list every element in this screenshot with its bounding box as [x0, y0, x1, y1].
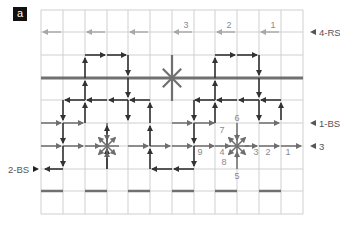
dark-arrows — [45, 55, 281, 169]
movement-number-label: 1 — [285, 147, 290, 157]
movement-number-label: 9 — [197, 147, 202, 157]
movement-number-label: 4 — [219, 147, 224, 157]
side-label-text: 1-BS — [319, 118, 340, 129]
movement-number-label: 5 — [234, 171, 239, 181]
side-label-4-rs: 4-RS — [310, 27, 340, 38]
side-label-1-bs: 1-BS — [310, 118, 340, 129]
side-label-text: 4-RS — [319, 27, 340, 38]
panel-label: a — [13, 7, 27, 21]
arrow-number-label: 3 — [183, 20, 188, 30]
radial-burst-icon — [95, 134, 119, 158]
movement-number-label: 3 — [253, 147, 258, 157]
arrow-number-label: 2 — [226, 20, 231, 30]
side-label-3: 3 — [310, 141, 324, 152]
movement-number-label: 2 — [265, 147, 270, 157]
traffic-grid-diagram: 321 674832195 4-RS1-BS32-BS — [0, 0, 340, 227]
triangle-left-icon — [310, 29, 316, 35]
triangle-left-icon — [310, 143, 316, 149]
side-label-2-bs: 2-BS — [8, 164, 39, 175]
side-label-text: 2-BS — [8, 164, 29, 175]
movement-number-label: 7 — [219, 125, 224, 135]
grid-lines — [41, 10, 303, 214]
triangle-left-icon — [310, 120, 316, 126]
row-4rs-arrows: 321 — [43, 20, 279, 32]
movement-number-label: 6 — [234, 113, 239, 123]
arrow-number-label: 1 — [270, 20, 275, 30]
diagram-stage: a 321 674832195 4-RS1-BS32-BS — [0, 0, 340, 227]
side-label-text: 3 — [319, 141, 324, 152]
triangle-right-icon — [33, 166, 39, 172]
movement-number-label: 8 — [221, 157, 226, 167]
radial-burst-icon — [225, 134, 249, 158]
